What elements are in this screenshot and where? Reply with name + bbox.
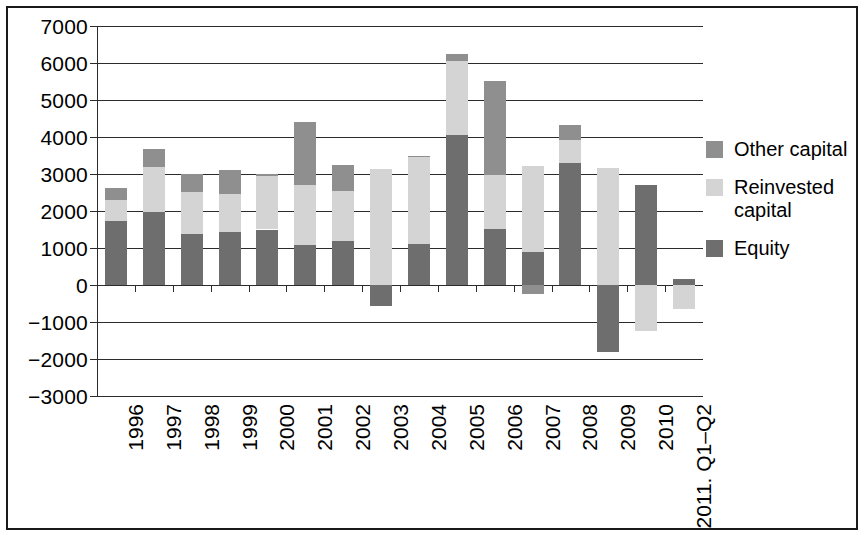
bar-group <box>635 26 657 396</box>
x-tick-label: 2001 <box>314 404 335 451</box>
bar-segment-equity <box>522 252 544 285</box>
legend-swatch-reinvested-icon <box>706 179 723 196</box>
y-tick-label: 3000 <box>40 164 88 185</box>
bar-segment-other <box>294 122 316 185</box>
bar-segment-other <box>446 54 468 61</box>
bar-segment-equity <box>294 245 316 285</box>
x-tick-label: 2000 <box>276 404 297 451</box>
y-tick <box>90 63 97 64</box>
bar-group <box>294 26 316 396</box>
bar-segment-reinvested <box>370 169 392 285</box>
legend-label: Other capital <box>734 138 847 162</box>
bar-segment-reinvested <box>673 285 695 309</box>
x-tick-label: 2005 <box>466 404 487 451</box>
x-tick-label: 1996 <box>125 404 146 451</box>
legend-label: Reinvested capital <box>734 176 834 223</box>
y-tick <box>90 285 97 286</box>
bar-segment-other <box>105 188 127 200</box>
bar-segment-equity <box>219 232 241 285</box>
x-tick-label: 2004 <box>428 404 449 451</box>
bar-segment-equity <box>256 230 278 286</box>
y-tick-label: 1000 <box>40 238 88 259</box>
bar-segment-equity <box>597 285 619 352</box>
bar-segment-other <box>256 174 278 176</box>
y-tick-label: 5000 <box>40 90 88 111</box>
x-tick-label: 2008 <box>579 404 600 451</box>
bar-segment-other <box>559 125 581 140</box>
y-tick <box>90 396 97 397</box>
bar-group <box>597 26 619 396</box>
bar-group <box>408 26 430 396</box>
bar-segment-other <box>484 81 506 175</box>
bar-segment-reinvested <box>559 140 581 163</box>
bar-group <box>181 26 203 396</box>
y-tick <box>90 322 97 323</box>
y-tick-label: −1000 <box>28 312 88 333</box>
bar-group <box>219 26 241 396</box>
bar-group <box>673 26 695 396</box>
legend-item: Equity <box>706 237 856 261</box>
bar-group <box>105 26 127 396</box>
bar-segment-reinvested <box>446 61 468 135</box>
bar-group <box>256 26 278 396</box>
x-tick-label: 2011. Q1–Q2 <box>693 404 714 529</box>
legend-item: Reinvested capital <box>706 176 856 223</box>
bar-group <box>559 26 581 396</box>
bar-segment-reinvested <box>484 175 506 229</box>
bar-segment-reinvested <box>219 194 241 232</box>
bar-group <box>143 26 165 396</box>
x-tick-label: 2002 <box>352 404 373 451</box>
y-tick <box>90 174 97 175</box>
x-tick-label: 2010 <box>655 404 676 451</box>
chart-legend: Other capitalReinvested capitalEquity <box>706 138 856 274</box>
chart-figure: 70006000500040003000200010000−1000−2000−… <box>0 0 864 538</box>
y-tick-label: −2000 <box>28 349 88 370</box>
bar-segment-other <box>181 174 203 193</box>
bar-segment-reinvested <box>408 156 430 244</box>
bar-segment-equity <box>370 285 392 306</box>
bar-segment-equity <box>408 244 430 285</box>
x-tick-label: 2007 <box>542 404 563 451</box>
y-tick-label: 4000 <box>40 127 88 148</box>
bar-segment-reinvested <box>635 285 657 331</box>
y-tick <box>90 248 97 249</box>
x-tick-labels: 1996199719981999200020012002200320042005… <box>97 404 703 534</box>
legend-item: Other capital <box>706 138 856 162</box>
bar-segment-equity <box>635 185 657 285</box>
bar-segment-equity <box>446 135 468 285</box>
y-tick <box>90 211 97 212</box>
legend-swatch-equity-icon <box>706 240 723 257</box>
y-tick-label: −3000 <box>28 386 88 407</box>
y-tick <box>90 137 97 138</box>
x-tick-label: 2006 <box>504 404 525 451</box>
bar-segment-equity <box>143 212 165 285</box>
bar-segment-reinvested <box>256 176 278 229</box>
bar-group <box>522 26 544 396</box>
y-tick <box>90 26 97 27</box>
bar-segment-other <box>219 170 241 194</box>
bar-group <box>370 26 392 396</box>
bar-segment-other <box>408 156 430 157</box>
bar-segment-equity <box>181 234 203 285</box>
y-tick <box>90 359 97 360</box>
bar-segment-equity <box>332 241 354 285</box>
bar-segment-reinvested <box>143 167 165 212</box>
y-tick-label: 0 <box>76 275 88 296</box>
legend-swatch-other-icon <box>706 141 723 158</box>
bar-segment-other <box>332 165 354 192</box>
bar-segment-equity <box>484 229 506 285</box>
bar-segment-reinvested <box>597 168 619 285</box>
x-tick-label: 2003 <box>390 404 411 451</box>
bar-segment-reinvested <box>181 192 203 234</box>
bar-group <box>484 26 506 396</box>
bar-segment-reinvested <box>294 185 316 245</box>
bar-segment-other <box>143 149 165 167</box>
bar-group <box>446 26 468 396</box>
bar-segment-reinvested <box>522 166 544 252</box>
bar-series-container <box>97 26 703 400</box>
y-tick <box>90 100 97 101</box>
x-tick-label: 1997 <box>163 404 184 451</box>
bar-segment-reinvested <box>332 191 354 241</box>
bar-segment-other <box>522 285 544 294</box>
legend-label: Equity <box>734 237 790 261</box>
